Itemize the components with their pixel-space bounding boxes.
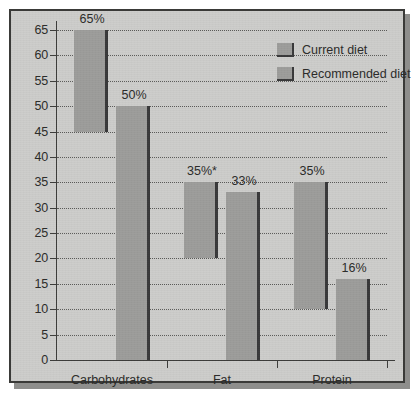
bar-value-label: 50% [121,88,146,102]
chart-legend: Current dietRecommended diet [277,39,412,87]
bar-value-label: 35% [299,164,324,178]
gridline [57,132,387,133]
x-category-label: Carbohydrates [71,373,153,387]
gridline [57,208,387,209]
y-axis-tick [50,208,57,209]
bar [74,30,108,132]
y-axis-tick [50,233,57,234]
bar [184,182,218,258]
legend-item-label: Recommended diet [302,67,410,81]
gridline [57,258,387,259]
y-axis-tick [50,132,57,133]
y-axis-tick [50,335,57,336]
bar [294,182,328,309]
y-axis-tick [50,81,57,82]
gridline [57,182,387,183]
y-axis-tick-label: 60 [34,48,48,62]
legend-item[interactable]: Current diet [277,39,412,60]
y-axis-tick-label: 55 [34,74,48,88]
y-axis-tick-label: 15 [34,277,48,291]
y-axis-tick [50,258,57,259]
y-axis-tick-label: 65 [34,23,48,37]
chart-figure: 05101520253035404550556065 65%50%35%*33%… [0,0,420,397]
bar-value-label: 16% [341,261,366,275]
x-category-label: Fat [213,373,231,387]
y-axis-tick [50,360,57,361]
x-axis-line [50,360,395,361]
x-axis-tick [387,360,388,368]
bar-value-label: 65% [79,12,104,26]
legend-item-label: Current diet [302,43,367,57]
y-axis-tick-label: 50 [34,99,48,113]
y-axis-tick [50,309,57,310]
y-axis-tick [50,182,57,183]
y-axis-tick-label: 0 [41,353,48,367]
legend-swatch-icon [277,67,294,81]
y-axis-tick-label: 25 [34,226,48,240]
bar [336,279,370,360]
x-category-label: Protein [312,373,352,387]
y-axis-tick-label: 10 [34,302,48,316]
legend-swatch-icon [277,43,294,57]
y-axis-tick-label: 30 [34,201,48,215]
chart-panel: 05101520253035404550556065 65%50%35%*33%… [9,9,405,383]
bar [226,192,260,360]
bar [116,106,150,360]
y-axis-tick-label: 20 [34,251,48,265]
y-axis-tick-label: 45 [34,125,48,139]
x-axis-tick [167,360,168,368]
legend-item[interactable]: Recommended diet [277,63,412,84]
y-axis-tick [50,55,57,56]
y-axis-tick-label: 40 [34,150,48,164]
bar-value-label: 33% [231,174,256,188]
y-axis-tick [50,30,57,31]
bar-value-label: 35%* [187,164,217,178]
y-axis-tick-label: 35 [34,175,48,189]
y-axis-tick-label: 5 [41,328,48,342]
x-axis-tick [277,360,278,368]
y-axis-tick [50,157,57,158]
gridline [57,157,387,158]
y-axis-tick [50,284,57,285]
y-axis-tick [50,106,57,107]
gridline [57,233,387,234]
